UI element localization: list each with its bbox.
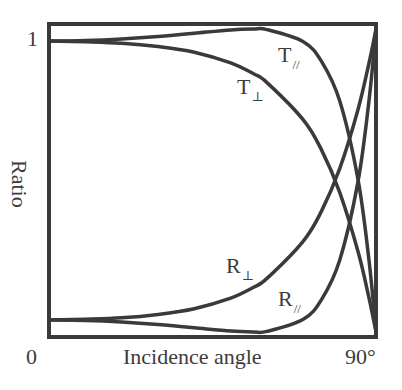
label-t-parallel: T//: [278, 44, 299, 66]
x-axis-label: Incidence angle: [123, 346, 262, 368]
label-r-perp: R⊥: [226, 255, 253, 277]
y-tick-1: 1: [27, 28, 38, 50]
x-tick-0: 0: [26, 346, 37, 368]
label-t-parallel-sub: //: [292, 57, 299, 72]
label-r-parallel-main: R: [278, 286, 293, 311]
label-t-parallel-main: T: [278, 42, 291, 67]
label-t-perp-sub: ⊥: [251, 89, 263, 104]
label-r-perp-main: R: [226, 253, 241, 278]
label-r-parallel: R//: [278, 288, 300, 310]
label-t-perp-main: T: [237, 74, 250, 99]
y-axis-label: Ratio: [6, 160, 32, 208]
label-r-parallel-sub: //: [294, 301, 301, 316]
curves-group: [49, 28, 376, 332]
label-r-perp-sub: ⊥: [242, 268, 254, 283]
label-t-perp: T⊥: [237, 76, 263, 98]
fresnel-chart: [0, 0, 402, 390]
x-tick-90: 90°: [345, 346, 376, 368]
